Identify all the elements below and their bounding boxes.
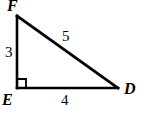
right-angle-marker-icon <box>17 79 26 88</box>
right-triangle-figure: F E D 3 4 5 <box>0 0 144 113</box>
vertex-label-d: D <box>124 81 136 97</box>
triangle-drawing <box>0 0 144 113</box>
side-hypotenuse <box>17 16 118 88</box>
side-length-label-hypotenuse: 5 <box>62 29 70 44</box>
side-length-label-leg-vertical: 3 <box>5 45 13 60</box>
side-length-label-leg-horizontal: 4 <box>61 93 69 108</box>
vertex-label-e: E <box>2 92 13 108</box>
vertex-label-f: F <box>7 0 18 14</box>
